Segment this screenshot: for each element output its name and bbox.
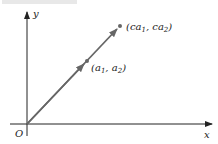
point-a-label: (a1, a2) <box>91 62 126 75</box>
point-ca <box>118 24 122 28</box>
vector-scaling-diagram: O x y (a1, a2) (ca1, ca2) <box>0 0 218 144</box>
origin-label: O <box>15 128 23 139</box>
x-axis-label: x <box>204 129 210 140</box>
y-axis-label: y <box>32 8 39 19</box>
point-ca-label: (ca1, ca2) <box>126 21 172 34</box>
vector-a <box>27 64 84 124</box>
point-a <box>85 59 89 63</box>
